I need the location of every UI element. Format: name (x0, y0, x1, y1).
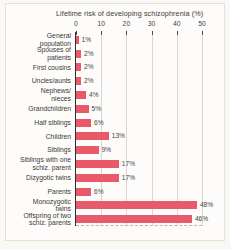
bar-value-label: 6% (94, 188, 104, 196)
bar (76, 146, 99, 154)
bar (76, 188, 91, 196)
x-tick-label: 10 (97, 20, 105, 27)
category-label: Siblings with one schiz. parent (0, 156, 71, 171)
plot-area: 1%2%2%2%4%5%6%13%9%17%17%6%48%46% (76, 33, 202, 226)
bar-row: 9% (76, 143, 202, 157)
chart-title: Lifetime risk of developing schizophreni… (56, 9, 226, 18)
bar-row: 46% (76, 212, 202, 226)
bar-row: 13% (76, 130, 202, 144)
bar-row: 17% (76, 157, 202, 171)
bar-value-label: 1% (82, 36, 92, 44)
x-tick-label: 0 (74, 20, 78, 27)
x-tick-label: 40 (173, 20, 181, 27)
bar-value-label: 5% (92, 105, 102, 113)
category-label: Nephews/ nieces (0, 87, 71, 102)
bar-value-label: 2% (84, 50, 94, 58)
x-tick-mark (101, 31, 102, 35)
x-tick-mark (202, 31, 203, 35)
bar-row: 2% (76, 47, 202, 61)
category-label: Siblings (0, 146, 71, 154)
category-label: Grandchildren (0, 105, 71, 113)
bar-row: 5% (76, 102, 202, 116)
bar-row: 48% (76, 198, 202, 212)
bar-row: 4% (76, 88, 202, 102)
bar (76, 63, 81, 71)
bar (76, 77, 81, 85)
x-tick-label: 30 (148, 20, 156, 27)
category-label: Children (0, 133, 71, 141)
chart-page: Lifetime risk of developing schizophreni… (0, 0, 230, 249)
bar-row: 2% (76, 74, 202, 88)
bar (76, 132, 109, 140)
bar (76, 91, 86, 99)
bar-value-label: 48% (200, 201, 213, 209)
bar-row: 1% (76, 33, 202, 47)
category-label: Dizygotic twins (0, 174, 71, 182)
bar-value-label: 17% (122, 174, 135, 182)
bar (76, 36, 79, 44)
bar (76, 174, 119, 182)
bar-value-label: 2% (84, 63, 94, 71)
x-axis-tick-labels: 01020304050 (76, 20, 202, 30)
bar-row: 17% (76, 171, 202, 185)
category-label: First cousins (0, 64, 71, 72)
bar-value-label: 13% (112, 132, 125, 140)
category-label: Spouses of patients (0, 46, 71, 61)
x-tick-label: 50 (198, 20, 206, 27)
x-tick-label: 20 (123, 20, 131, 27)
category-label: Parents (0, 188, 71, 196)
x-tick-mark (152, 31, 153, 35)
bar-row: 6% (76, 116, 202, 130)
bar-value-label: 9% (102, 146, 112, 154)
category-label: Offspring of two schiz. parents (0, 212, 71, 227)
bar (76, 215, 192, 223)
bar (76, 50, 81, 58)
bar (76, 105, 89, 113)
bar-value-label: 2% (84, 77, 94, 85)
schizophrenia-risk-bar-chart: Lifetime risk of developing schizophreni… (0, 0, 230, 249)
x-tick-mark (126, 31, 127, 35)
bar-value-label: 4% (89, 91, 99, 99)
x-axis-baseline (76, 225, 202, 226)
bar-value-label: 46% (195, 215, 208, 223)
bar-row: 2% (76, 61, 202, 75)
bar (76, 160, 119, 168)
bar-value-label: 17% (122, 160, 135, 168)
category-label: Half siblings (0, 119, 71, 127)
bar (76, 119, 91, 127)
bar (76, 201, 197, 209)
gridline (202, 33, 203, 226)
x-tick-mark (177, 31, 178, 35)
bar-value-label: 6% (94, 119, 104, 127)
category-label: Uncles/aunts (0, 77, 71, 85)
bar-row: 6% (76, 185, 202, 199)
x-tick-mark (76, 31, 77, 35)
